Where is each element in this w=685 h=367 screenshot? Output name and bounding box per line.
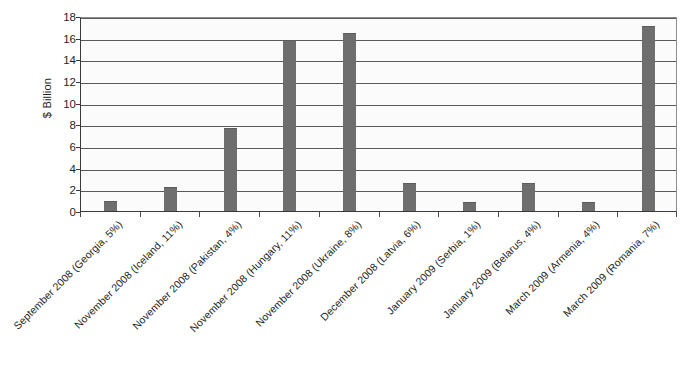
x-tick-mark — [140, 212, 141, 217]
y-tick-label: 14 — [20, 54, 76, 66]
x-tick-mark — [617, 212, 618, 217]
x-tick-mark — [438, 212, 439, 217]
y-tick-label: 4 — [20, 163, 76, 175]
x-tick-mark — [558, 212, 559, 217]
x-tick-mark — [80, 212, 81, 217]
y-tick-label: 10 — [20, 98, 76, 110]
bar[interactable] — [642, 26, 655, 211]
bar[interactable] — [582, 202, 595, 211]
x-tick-label: November 2008 (Ukraine, 8%) — [252, 218, 363, 329]
x-tick-mark — [199, 212, 200, 217]
bar-slot — [260, 18, 320, 211]
x-tick-label: September 2008 (Georgia, 5%) — [11, 218, 125, 332]
bar-slot — [320, 18, 380, 211]
plot-area — [80, 17, 677, 212]
bar-slot — [559, 18, 619, 211]
x-tick-mark — [498, 212, 499, 217]
y-tick-label: 6 — [20, 141, 76, 153]
bar-slot — [380, 18, 440, 211]
x-tick-mark — [379, 212, 380, 217]
x-tick-label: November 2008 (Pakistan, 4%) — [130, 218, 244, 332]
bar-slot — [141, 18, 201, 211]
bar-slot — [499, 18, 559, 211]
y-tick-label: 2 — [20, 184, 76, 196]
y-axis-ticks: 024681012141618 — [14, 17, 76, 212]
bar-slot — [81, 18, 141, 211]
y-tick-label: 8 — [20, 119, 76, 131]
y-tick-label: 16 — [20, 33, 76, 45]
y-tick-label: 12 — [20, 76, 76, 88]
bars-layer — [81, 18, 676, 211]
x-tick-label: November 2008 (Hungary, 11%) — [187, 218, 303, 334]
x-tick-label: November 2008 (Iceland, 11%) — [71, 218, 184, 331]
x-tick-mark — [259, 212, 260, 217]
x-tick-mark — [319, 212, 320, 217]
x-axis-labels: September 2008 (Georgia, 5%)November 200… — [80, 218, 685, 367]
y-tick-label: 18 — [20, 11, 76, 23]
x-tick-label: December 2008 (Latvia, 6%) — [318, 218, 423, 323]
bar[interactable] — [104, 201, 117, 211]
bar[interactable] — [224, 128, 237, 211]
bar-chart: $ Billion 024681012141618 September 2008… — [0, 0, 685, 367]
bar-slot — [618, 18, 678, 211]
x-tick-mark — [676, 212, 677, 217]
y-tick-label: 0 — [20, 206, 76, 218]
bar[interactable] — [283, 40, 296, 211]
bar[interactable] — [164, 187, 177, 211]
bar[interactable] — [522, 183, 535, 211]
x-tick-label: January 2009 (Belarus, 4%) — [440, 218, 542, 320]
bar[interactable] — [403, 183, 416, 211]
bar[interactable] — [343, 33, 356, 211]
bar-slot — [200, 18, 260, 211]
x-tick-label: March 2009 (Romania, 7%) — [561, 218, 662, 319]
bar-slot — [439, 18, 499, 211]
bar[interactable] — [463, 202, 476, 211]
